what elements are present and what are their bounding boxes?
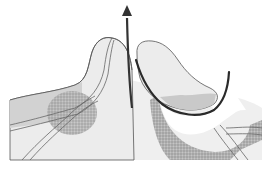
diagram-canvas: [0, 0, 267, 169]
anatomy-diagram: [0, 0, 267, 169]
